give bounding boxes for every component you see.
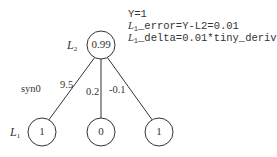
weight-0: 9.5 <box>60 79 73 90</box>
l1-node-value-2: 1 <box>145 125 173 137</box>
annotation-delta: L1_delta=0.01*tiny_deriv <box>128 32 277 47</box>
annotation-target: Y=1 <box>128 8 147 20</box>
l1-node-value-0: 1 <box>28 125 56 137</box>
l1-layer-label: L1 <box>10 125 20 140</box>
l2-layer-label: L2 <box>67 38 77 53</box>
weight-2: -0.1 <box>109 84 126 95</box>
weight-matrix-label: syn0 <box>21 83 41 94</box>
l1-node-value-1: 0 <box>87 125 115 137</box>
l2-node-value: 0.99 <box>87 38 115 50</box>
weight-1: 0.2 <box>86 86 99 97</box>
